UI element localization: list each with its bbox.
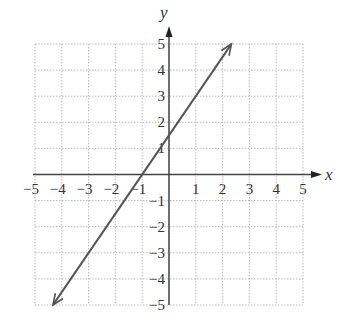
y-tick-label: −5 (149, 297, 165, 313)
x-tick-label: −2 (103, 181, 119, 197)
y-tick-label: −3 (149, 245, 165, 261)
x-axis-label: x (324, 165, 333, 184)
y-tick-label: 3 (158, 88, 166, 104)
x-tick-label: 3 (246, 181, 254, 197)
x-tick-label: 2 (219, 181, 227, 197)
x-tick-label: −4 (50, 181, 66, 197)
y-axis-arrow-icon (166, 26, 173, 37)
x-tick-label: 5 (299, 181, 307, 197)
y-tick-label: −2 (149, 219, 165, 235)
x-tick-label: 1 (192, 181, 200, 197)
x-tick-label: −3 (77, 181, 93, 197)
y-tick-label: 2 (158, 114, 166, 130)
x-tick-label: 4 (272, 181, 280, 197)
x-tick-label: −5 (23, 181, 39, 197)
y-axis-label: y (158, 3, 168, 22)
y-tick-label: −4 (149, 271, 165, 287)
y-tick-label: 4 (158, 62, 166, 78)
coordinate-graph: −5−4−3−2−11234554321−1−2−3−4−5 x y (0, 0, 348, 328)
y-tick-label: 5 (158, 36, 166, 52)
y-tick-label: −1 (149, 193, 165, 209)
axes (33, 26, 322, 305)
x-axis-arrow-icon (311, 171, 322, 178)
